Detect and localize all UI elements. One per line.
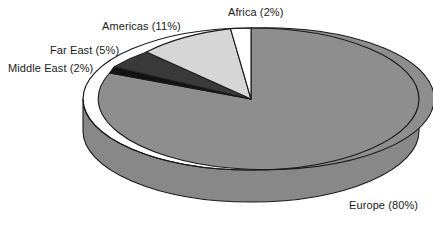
- pie-label-europe: Europe (80%): [349, 199, 418, 212]
- pie-label-americas: Americas (11%): [102, 20, 181, 33]
- pie-chart-figure: Africa (2%) Americas (11%) Far East (5%)…: [0, 0, 433, 227]
- pie-label-middle-east: Middle East (2%): [8, 62, 93, 75]
- pie-label-far-east: Far East (5%): [50, 44, 119, 57]
- pie-slice-europe: [98, 28, 433, 170]
- pie-chart-graphic: [0, 0, 433, 227]
- pie-label-africa: Africa (2%): [228, 6, 284, 19]
- pie-top-surface: [83, 28, 433, 170]
